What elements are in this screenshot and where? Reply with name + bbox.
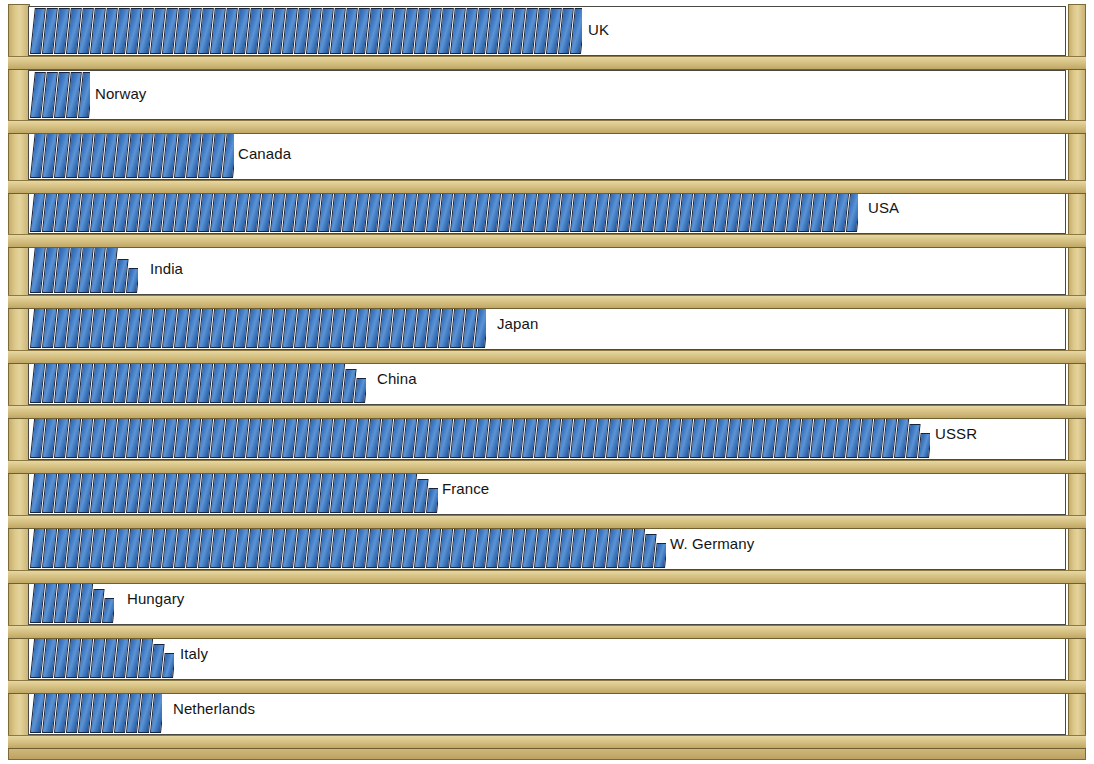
shelf-plank	[8, 295, 1086, 309]
book-icon	[426, 488, 438, 513]
shelf-plank	[8, 680, 1086, 694]
book-stack	[30, 247, 138, 293]
shelf-row-background	[28, 70, 1066, 120]
bar-label: Hungary	[127, 590, 184, 607]
bar-label: Norway	[95, 85, 146, 102]
shelf-row[interactable]: Canada	[28, 130, 1066, 180]
shelf-plank	[8, 735, 1086, 749]
bar-label: France	[442, 480, 489, 497]
shelf-plank	[8, 625, 1086, 639]
shelf-plank	[8, 234, 1086, 248]
bar-label: Italy	[180, 645, 208, 662]
bar-label: USA	[868, 199, 899, 216]
book-icon	[918, 433, 930, 458]
shelf-row[interactable]: India	[28, 245, 1066, 295]
shelf-plank	[8, 120, 1086, 134]
shelf-frame-left-post	[8, 4, 30, 760]
shelf-plank	[8, 350, 1086, 364]
shelf-plank	[8, 515, 1086, 529]
shelf-row[interactable]: Norway	[28, 70, 1066, 120]
book-icon	[102, 598, 114, 623]
book-icon	[654, 543, 666, 568]
shelf-row[interactable]: UK	[28, 6, 1066, 56]
bar-label: W. Germany	[670, 535, 754, 552]
book-icon	[162, 653, 174, 678]
book-stack	[30, 72, 90, 118]
bar-label: UK	[588, 21, 609, 38]
bar-label: Japan	[497, 315, 538, 332]
bar-label: India	[150, 260, 183, 277]
shelf-frame-right-post	[1068, 4, 1086, 760]
shelf-plank	[8, 405, 1086, 419]
shelf-plank	[8, 56, 1086, 70]
shelf-plank	[8, 180, 1086, 194]
shelf-row-background	[28, 245, 1066, 295]
book-stack	[30, 132, 234, 178]
shelf-plank	[8, 570, 1086, 584]
book-icon	[354, 378, 366, 403]
bookshelf-bar-chart: UKNorwayCanadaUSAIndiaJapanChinaUSSRFran…	[0, 0, 1094, 764]
bar-label: Canada	[238, 145, 291, 162]
book-icon	[126, 268, 138, 293]
bar-label: China	[377, 370, 417, 387]
bar-label: Netherlands	[173, 700, 255, 717]
shelf-plank	[8, 460, 1086, 474]
book-stack	[30, 8, 582, 54]
bar-label: USSR	[935, 425, 977, 442]
